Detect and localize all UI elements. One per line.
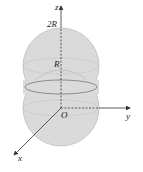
x-axis-label: x [17,153,22,163]
diagram-canvas: z 2R R O y x [0,0,143,172]
tick-2R: 2R [47,19,58,29]
y-axis-label: y [125,111,130,121]
z-axis-label: z [54,2,59,12]
tick-R: R [53,59,60,69]
origin-label: O [61,110,68,120]
